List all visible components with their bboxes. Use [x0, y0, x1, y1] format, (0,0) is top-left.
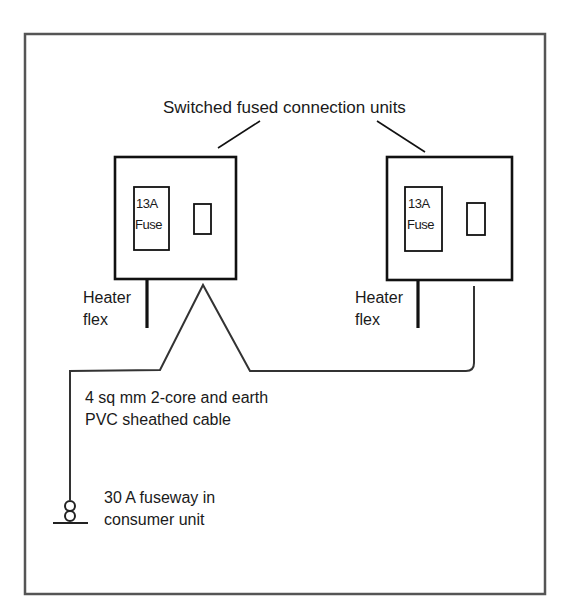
fuse-label-right: Fuse [407, 217, 434, 232]
wiring-diagram: Switched fused connection units 13A Fuse… [0, 0, 571, 607]
flex-label-right-2: flex [355, 311, 380, 328]
flex-label-left-1: Heater [83, 289, 132, 306]
title-label: Switched fused connection units [163, 98, 406, 117]
connection-unit-right: 13A Fuse Heater flex [355, 157, 512, 328]
fuse-rating-right: 13A [408, 196, 430, 211]
fuse-rating-left: 13A [136, 196, 158, 211]
pointer-line-left [218, 121, 260, 148]
fuse-label-left: Fuse [135, 217, 162, 232]
fuseway-icon [53, 501, 88, 523]
flex-label-left-2: flex [83, 311, 108, 328]
supply-label-2: consumer unit [104, 511, 205, 528]
switch-icon-right [467, 203, 485, 235]
flex-label-right-1: Heater [355, 289, 404, 306]
supply-label-1: 30 A fuseway in [104, 489, 215, 506]
cable-label-2: PVC sheathed cable [85, 411, 231, 428]
pointer-line-right [377, 121, 425, 152]
switch-icon-left [194, 204, 211, 234]
cable-label-1: 4 sq mm 2-core and earth [85, 389, 268, 406]
